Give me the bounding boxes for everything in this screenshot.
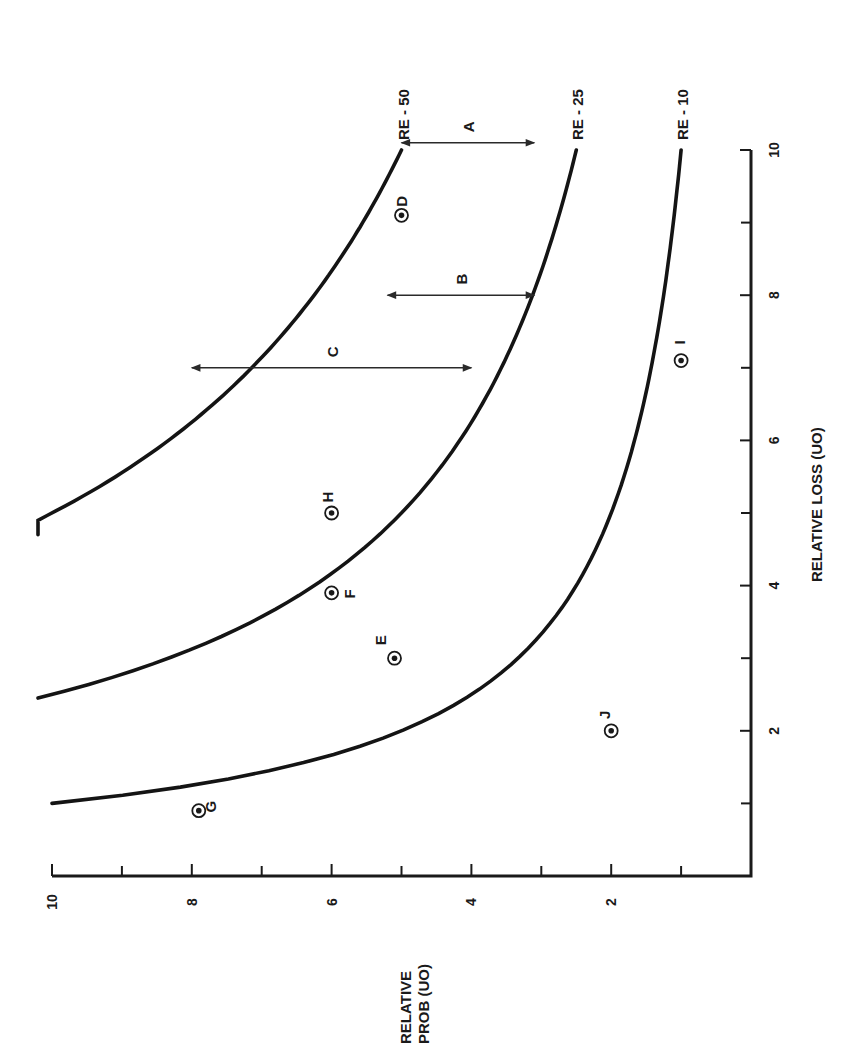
x-tick-label: 4: [766, 581, 782, 589]
x-tick-label: 6: [766, 436, 782, 444]
curve-label: RE - 10: [674, 89, 691, 140]
point-label: I: [671, 340, 688, 344]
axis-labels: RELATIVE LOSS (UO) RELATIVE PROB (UO): [397, 427, 825, 1044]
point-label: G: [202, 801, 219, 813]
data-point: E: [372, 635, 402, 665]
point-label: F: [341, 589, 358, 598]
arrow-label: C: [324, 346, 341, 357]
arrow-label: A: [460, 121, 477, 132]
x-tick-label: 8: [766, 291, 782, 299]
point-dot: [329, 510, 335, 516]
point-label: E: [372, 635, 389, 645]
point-dot: [399, 213, 405, 219]
point-dot: [608, 728, 614, 734]
curve-re50: [38, 150, 402, 535]
point-label: D: [393, 196, 410, 207]
arrow-label: B: [453, 274, 470, 285]
curve-label: RE - 50: [395, 89, 412, 140]
point-label: H: [319, 492, 336, 503]
axes: 246810246810: [44, 142, 782, 910]
point-label: J: [596, 711, 613, 719]
y-axis-title-line2: PROB (UO): [415, 964, 432, 1044]
y-tick-label: 6: [324, 898, 340, 906]
x-tick-label: 10: [766, 142, 782, 158]
curve-label: RE - 25: [569, 89, 586, 140]
y-tick-label: 4: [463, 898, 479, 906]
y-tick-label: 2: [603, 898, 619, 906]
data-point: H: [319, 492, 339, 520]
y-axis-title-line1: RELATIVE: [397, 971, 414, 1044]
x-axis-title: RELATIVE LOSS (UO): [808, 427, 825, 582]
y-tick-label: 8: [184, 898, 200, 906]
data-point: J: [596, 711, 618, 738]
data-point: F: [325, 586, 358, 599]
risk-chart: 246810246810 RE - 50RE - 25RE - 10 ABC D…: [0, 0, 863, 1056]
data-point: D: [393, 196, 410, 222]
point-dot: [392, 655, 398, 661]
point-dot: [196, 808, 202, 814]
data-point: I: [671, 340, 688, 367]
curve-re10: [52, 150, 681, 803]
point-dot: [678, 358, 684, 364]
curve-re25: [38, 150, 576, 698]
data-point: G: [192, 801, 219, 817]
annotation-arrows: ABC: [192, 121, 535, 368]
iso-risk-curves: RE - 50RE - 25RE - 10: [38, 89, 691, 803]
x-tick-label: 2: [766, 727, 782, 735]
y-tick-label: 10: [44, 894, 60, 910]
point-dot: [329, 590, 335, 596]
